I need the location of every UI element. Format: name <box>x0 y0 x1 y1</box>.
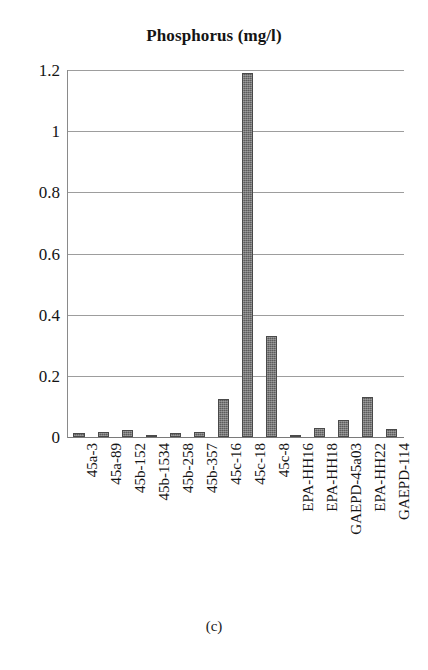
x-tick-label: 45c-18 <box>253 443 268 485</box>
y-tick-label: 0.8 <box>0 184 60 201</box>
x-tick-label: EPA-HH18 <box>325 443 340 512</box>
x-tick-label: 45b-152 <box>133 443 148 493</box>
bar <box>338 420 349 437</box>
bar <box>122 430 133 437</box>
bar <box>386 429 397 437</box>
chart-title: Phosphorus (mg/l) <box>0 26 428 46</box>
y-tick-label: 1.2 <box>0 62 60 79</box>
x-tick-label: EPA-HH16 <box>301 443 316 512</box>
figure-caption: (c) <box>0 618 428 635</box>
phosphorus-bar-chart-figure: Phosphorus (mg/l) 00.20.40.60.811.2 45a-… <box>0 0 428 670</box>
x-tick-label: EPA-HH22 <box>373 443 388 512</box>
x-tick-label: GAEPD-114 <box>397 443 412 520</box>
x-tick-label: 45c-8 <box>277 443 292 477</box>
y-tick-label: 1 <box>0 123 60 140</box>
bar <box>242 73 253 437</box>
bar <box>362 397 373 437</box>
x-tick-label: 45b-258 <box>181 443 196 493</box>
x-tick-label: 45a-89 <box>109 443 124 485</box>
y-tick-label: 0.4 <box>0 306 60 323</box>
x-tick-label: 45b-357 <box>205 443 220 493</box>
bar-series <box>67 70 404 437</box>
x-tick-label: 45c-16 <box>229 443 244 485</box>
x-tick-label: 45a-3 <box>85 443 100 477</box>
bar <box>218 399 229 437</box>
y-axis-tick-labels: 00.20.40.60.811.2 <box>0 70 60 437</box>
bar <box>266 336 277 437</box>
x-axis-tick-labels: 45a-345a-8945b-15245b-153445b-25845b-357… <box>67 437 404 612</box>
y-tick-label: 0.2 <box>0 367 60 384</box>
y-tick-label: 0.6 <box>0 245 60 262</box>
x-tick-label: GAEPD-45a03 <box>349 443 364 535</box>
bar <box>314 428 325 437</box>
y-tick-label: 0 <box>0 429 60 446</box>
x-tick-label: 45b-1534 <box>157 443 172 501</box>
